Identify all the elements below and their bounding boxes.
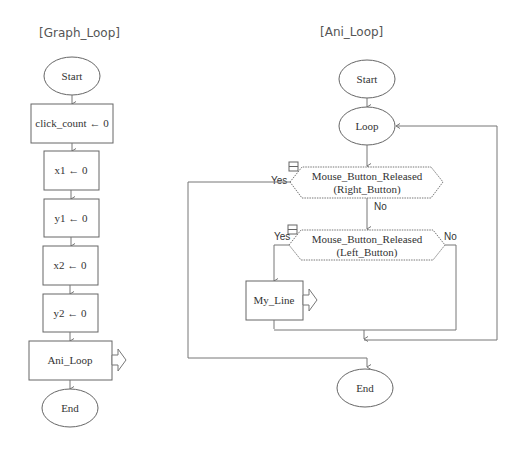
- decision-left-button[interactable]: Mouse_Button_Released (Left_Button) Yes …: [274, 225, 457, 260]
- subroutine-label: Ani_Loop: [47, 354, 93, 366]
- process-y2[interactable]: y2 ← 0: [43, 294, 98, 332]
- start-label: Start: [62, 70, 83, 82]
- end-label: End: [356, 382, 374, 394]
- end-terminal[interactable]: End: [337, 369, 393, 407]
- loop-label: Loop: [355, 120, 379, 132]
- decision-right-button[interactable]: Mouse_Button_Released (Right_Button) Yes…: [271, 162, 443, 212]
- call-arrow-icon: [112, 349, 126, 371]
- call-arrow-icon: [303, 289, 317, 311]
- subroutine-label: My_Line: [254, 294, 295, 306]
- yes-label: Yes: [274, 231, 290, 242]
- connector-yes-to-end: [188, 182, 367, 367]
- process-label: y2 ← 0: [54, 307, 88, 319]
- decision-line2: (Right_Button): [333, 183, 401, 196]
- chart-title-ani-loop: [Ani_Loop]: [320, 25, 383, 39]
- decision-line1: Mouse_Button_Released: [312, 233, 423, 245]
- decision-line1: Mouse_Button_Released: [312, 170, 423, 182]
- connector-yes-to-myline: [274, 245, 289, 281]
- process-x2[interactable]: x2 ← 0: [43, 246, 98, 285]
- start-terminal[interactable]: Start: [339, 60, 395, 98]
- process-label: y1 ← 0: [55, 212, 89, 224]
- process-label: click_count ← 0: [35, 117, 109, 129]
- loop-terminal[interactable]: Loop: [339, 107, 395, 145]
- process-label: x1 ← 0: [55, 164, 89, 176]
- chart-title-graph-loop: [Graph_Loop]: [39, 26, 120, 40]
- end-label: End: [61, 402, 79, 414]
- collapse-icon[interactable]: [289, 162, 298, 171]
- start-terminal[interactable]: Start: [44, 57, 100, 95]
- process-y1[interactable]: y1 ← 0: [44, 199, 99, 237]
- no-label: No: [444, 231, 457, 242]
- subroutine-call-ani-loop[interactable]: Ani_Loop: [29, 341, 126, 380]
- process-label: x2 ← 0: [54, 259, 88, 271]
- subroutine-call-my-line[interactable]: My_Line: [246, 281, 317, 320]
- end-terminal[interactable]: End: [42, 389, 98, 427]
- start-label: Start: [357, 73, 378, 85]
- ani-loop-chart: [Ani_Loop] Start Loop Mouse_Button_Relea…: [188, 25, 497, 407]
- process-click-count[interactable]: click_count ← 0: [31, 104, 113, 143]
- process-x1[interactable]: x1 ← 0: [44, 151, 99, 190]
- yes-label: Yes: [271, 175, 287, 186]
- graph-loop-chart: [Graph_Loop] Start click_count ← 0 x1 ← …: [29, 26, 126, 427]
- no-label: No: [374, 201, 387, 212]
- decision-line2: (Left_Button): [336, 246, 397, 259]
- connector-no-down: [445, 245, 456, 330]
